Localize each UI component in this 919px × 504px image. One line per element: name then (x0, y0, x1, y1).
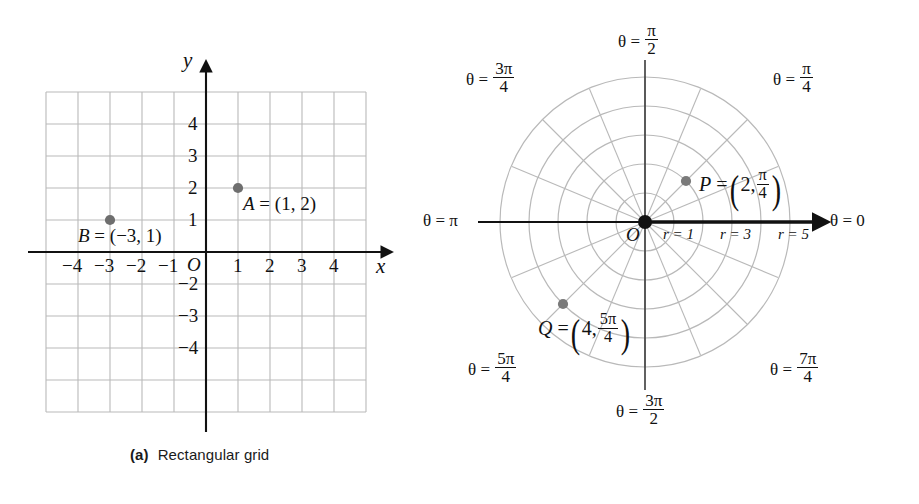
point-Q-label: Q =(4,5π4) (538, 311, 632, 346)
r-label-1: r = 1 (663, 226, 694, 243)
theta-frac-pi4-num: π (800, 60, 813, 77)
r-label-5: r = 5 (778, 226, 809, 243)
point-Q-eq: = (557, 317, 568, 339)
y-tick-1: 1 (188, 209, 198, 231)
point-Q-name: Q (538, 317, 552, 339)
x-tick--1: −1 (158, 255, 178, 277)
theta-symbol-3pi4: θ (466, 70, 474, 89)
theta-frac-pi2-num: π (645, 22, 658, 39)
figure-root: y x O −4 −3 −2 −1 1 2 3 4 4 3 2 1 −2 −3 … (0, 0, 919, 504)
x-tick-4: 4 (329, 255, 339, 277)
theta-label-3pi4: θ = 3π 4 (466, 60, 515, 96)
theta-frac-7pi4-num: 7π (797, 350, 818, 367)
point-A-name: A (243, 193, 255, 214)
r-label-3: r = 3 (720, 226, 751, 243)
theta-symbol-pi4: θ (773, 70, 781, 89)
point-B-name: B (78, 225, 90, 246)
point-P-comma: , (751, 173, 756, 195)
theta-label-7pi4: θ = 7π 4 (770, 350, 819, 386)
theta-value-pi: π (449, 211, 458, 230)
point-P-theta-den: 4 (757, 184, 769, 202)
point-B-marker (105, 215, 115, 225)
y-tick-2: 2 (188, 177, 198, 199)
point-P-r: 2 (741, 173, 751, 195)
point-P-eq: = (716, 173, 727, 195)
polar-grid-panel: O r = 1 r = 3 r = 5 θ = 0 θ = π 4 θ = (420, 0, 919, 504)
theta-frac-pi4-den: 4 (800, 77, 813, 95)
point-P-lparen: ( (729, 178, 738, 202)
x-tick-3: 3 (297, 255, 307, 277)
theta-eq-3pi4: = (478, 70, 488, 89)
theta-label-3pi2: θ = 3π 2 (616, 392, 665, 428)
theta-frac-7pi4: 7π 4 (797, 350, 818, 386)
theta-eq-0: = (842, 211, 852, 230)
theta-frac-5pi4: 5π 4 (495, 350, 516, 386)
theta-eq-pi: = (435, 211, 445, 230)
theta-frac-5pi4-num: 5π (495, 350, 516, 367)
theta-label-pi4: θ = π 4 (773, 60, 814, 96)
theta-symbol-3pi2: θ (616, 402, 624, 421)
theta-eq-5pi4: = (480, 360, 490, 379)
point-B-label: B = (−3, 1) (78, 225, 162, 247)
y-axis-label: y (183, 48, 192, 73)
y-tick--3: −3 (178, 305, 198, 327)
theta-frac-pi2: π 2 (645, 22, 658, 58)
y-tick--4: −4 (178, 337, 198, 359)
point-Q-lparen: ( (571, 322, 580, 346)
point-Q-rparen: ) (621, 322, 630, 346)
x-axis-label: x (376, 254, 385, 279)
theta-frac-3pi2: 3π 2 (643, 392, 664, 428)
point-Q-r: 4 (582, 317, 592, 339)
point-P-label: P =(2,π4) (699, 167, 783, 202)
point-Q-theta-den: 4 (598, 328, 618, 346)
point-P-theta: π4 (757, 167, 769, 201)
polar-origin-marker (638, 215, 652, 229)
theta-symbol-pi2: θ (618, 32, 626, 51)
x-tick-2: 2 (265, 255, 275, 277)
x-tick--3: −3 (94, 255, 114, 277)
theta-eq-pi4: = (785, 70, 795, 89)
theta-frac-5pi4-den: 4 (495, 367, 516, 385)
caption-a-tag: (a) (130, 446, 149, 463)
r-label-3-text: r = 3 (720, 226, 751, 242)
theta-label-5pi4: θ = 5π 4 (468, 350, 517, 386)
theta-frac-3pi4-num: 3π (493, 60, 514, 77)
rectangular-grid-panel: y x O −4 −3 −2 −1 1 2 3 4 4 3 2 1 −2 −3 … (0, 0, 440, 504)
y-tick-4: 4 (188, 113, 198, 135)
x-tick-1: 1 (233, 255, 243, 277)
theta-symbol-pi: θ (423, 211, 431, 230)
theta-label-pi: θ = π (423, 211, 458, 231)
theta-symbol-7pi4: θ (770, 360, 778, 379)
point-B-coords: = (−3, 1) (90, 225, 162, 246)
theta-label-0: θ = 0 (830, 211, 865, 231)
caption-rectangular: (a)Rectangular grid (130, 446, 269, 463)
point-Q-marker (558, 299, 568, 309)
point-Q-theta-num: 5π (598, 311, 618, 328)
y-tick--2: −2 (178, 273, 198, 295)
r-label-5-text: r = 5 (778, 226, 809, 242)
theta-frac-3pi4-den: 4 (493, 77, 514, 95)
theta-eq-7pi4: = (782, 360, 792, 379)
caption-a-text: Rectangular grid (158, 446, 270, 463)
point-P-name: P (699, 173, 711, 195)
theta-frac-3pi2-den: 2 (643, 409, 664, 427)
y-tick-3: 3 (188, 145, 198, 167)
theta-frac-3pi2-num: 3π (643, 392, 664, 409)
theta-frac-7pi4-den: 4 (797, 367, 818, 385)
theta-frac-pi4: π 4 (800, 60, 813, 96)
theta-symbol-5pi4: θ (468, 360, 476, 379)
point-P-rparen: ) (772, 178, 781, 202)
theta-frac-pi2-den: 2 (645, 39, 658, 57)
point-P-theta-num: π (757, 167, 769, 184)
x-tick--4: −4 (62, 255, 82, 277)
point-A-marker (233, 183, 243, 193)
rectangular-grid-svg (0, 0, 440, 440)
point-P-marker (681, 176, 691, 186)
theta-symbol-0: θ (830, 211, 838, 230)
x-tick--2: −2 (126, 255, 146, 277)
point-A-label: A = (1, 2) (243, 193, 316, 215)
theta-label-pi2: θ = π 2 (618, 22, 659, 58)
point-A-coords: = (1, 2) (255, 193, 316, 214)
theta-eq-3pi2: = (628, 402, 638, 421)
origin-label-polar: O (626, 224, 640, 246)
